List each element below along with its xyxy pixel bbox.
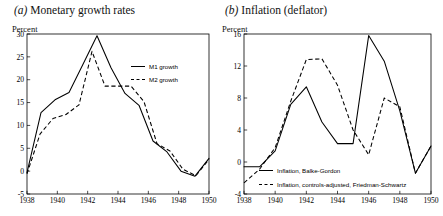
y-tick-label: 5 (20, 144, 24, 153)
x-tick-label: 1946 (361, 196, 376, 205)
x-tick-label: 1950 (423, 196, 438, 205)
y-tick-label: 12 (233, 62, 241, 71)
x-tick-label: 1944 (330, 196, 345, 205)
y-tick-label: 8 (237, 94, 241, 103)
panel-a-plot: -505101520253019381940194219441946194819… (0, 0, 221, 216)
y-tick-label: 15 (16, 98, 24, 107)
y-tick-label: 4 (237, 126, 241, 135)
legend-item-m1-growth: M1 growth (131, 63, 178, 70)
legend-label-inflation-friedman-schwartz: Inflation, controls-adjusted, Friedman-S… (277, 181, 406, 188)
panel-inflation-deflator: (b) Inflation (deflator) Percent -404812… (222, 0, 443, 216)
series-line (27, 51, 209, 175)
x-tick-label: 1940 (268, 196, 283, 205)
x-tick-label: 1944 (110, 196, 125, 205)
x-tick-label: 1948 (392, 196, 407, 205)
series-line (27, 36, 209, 176)
y-tick-label: 16 (233, 30, 241, 39)
y-tick-label: 20 (16, 75, 24, 84)
y-tick-label: 0 (20, 167, 24, 176)
legend-item-inflation-friedman-schwartz: Inflation, controls-adjusted, Friedman-S… (259, 181, 406, 188)
legend-label-m2-growth: M2 growth (149, 76, 178, 83)
y-tick-label: 10 (16, 121, 24, 130)
legend-item-m2-growth: M2 growth (131, 76, 178, 83)
figure-two-panel-chart: (a) Monetary growth rates Percent -50510… (0, 0, 443, 216)
x-tick-label: 1950 (201, 196, 216, 205)
y-tick-label: 30 (16, 30, 24, 39)
y-tick-label: 25 (16, 53, 24, 62)
legend-label-inflation-balke-gordon: Inflation, Balke-Gordon (277, 167, 340, 174)
x-tick-label: 1942 (80, 196, 95, 205)
x-tick-label: 1942 (299, 196, 314, 205)
plot-frame (27, 34, 209, 194)
x-tick-label: 1938 (236, 196, 251, 205)
legend-swatch-solid-icon (259, 170, 273, 171)
legend-swatch-dashed-icon (259, 184, 273, 185)
x-tick-label: 1938 (19, 196, 34, 205)
legend-item-inflation-balke-gordon: Inflation, Balke-Gordon (259, 167, 340, 174)
legend-label-m1-growth: M1 growth (149, 63, 178, 70)
x-tick-label: 1940 (50, 196, 65, 205)
legend-swatch-solid-icon (131, 66, 145, 67)
panel-monetary-growth-rates: (a) Monetary growth rates Percent -50510… (0, 0, 221, 216)
legend-swatch-dashed-icon (131, 79, 145, 80)
series-line (244, 59, 431, 183)
x-tick-label: 1948 (171, 196, 186, 205)
x-tick-label: 1946 (141, 196, 156, 205)
y-tick-label: 0 (237, 158, 241, 167)
